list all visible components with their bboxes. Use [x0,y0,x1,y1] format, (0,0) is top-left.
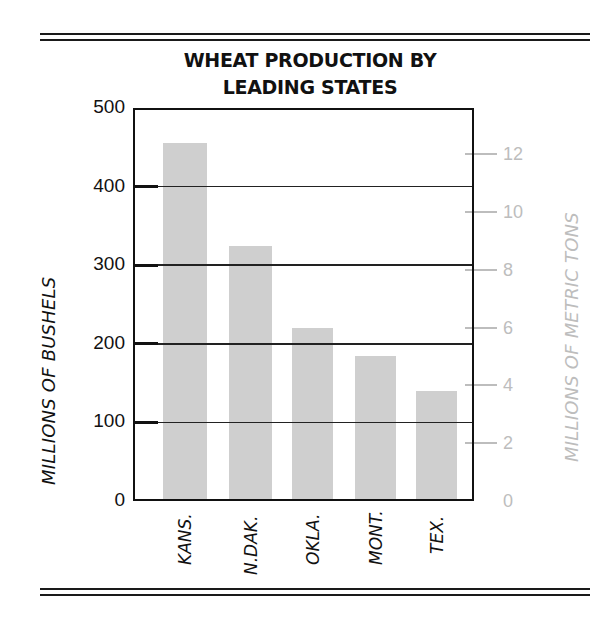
chart-title-line-1: WHEAT PRODUCTION BY [150,47,470,74]
y-tick-label: 400 [70,176,125,196]
bottom-rule-2 [40,594,590,596]
y-tick-label: 500 [70,97,125,117]
bottom-rule-1 [40,588,590,590]
y2-tick-label: 8 [503,260,513,280]
chart-title-line-2: LEADING STATES [150,74,470,101]
x-tick-label: KANS. [175,513,195,565]
y-tick-label: 200 [70,333,125,353]
y2-tick-label: 10 [503,202,523,222]
x-tick-label: MONT. [366,510,386,565]
y2-tick-label: 12 [503,144,523,164]
x-tick-label: TEX. [427,516,447,554]
y2-tick-label: 4 [503,375,513,395]
y2-tick-label: 0 [503,491,513,511]
x-tick-label: N.DAK. [241,516,261,575]
top-rule-2 [40,39,590,41]
y-axis-title: MILLIONS OF BUSHELS [38,277,59,485]
y-tick-label: 100 [70,411,125,431]
y-tick-label: 0 [70,490,125,510]
x-tick-label: OKLA. [303,513,323,564]
y2-tick-label: 2 [503,433,513,453]
y2-axis-title: MILLIONS OF METRIC TONS [561,212,582,462]
chart-title: WHEAT PRODUCTION BY LEADING STATES [150,47,470,101]
plot-area [133,108,474,501]
y2-tick-label: 6 [503,318,513,338]
y-tick-label: 300 [70,254,125,274]
top-rule-1 [40,33,590,35]
